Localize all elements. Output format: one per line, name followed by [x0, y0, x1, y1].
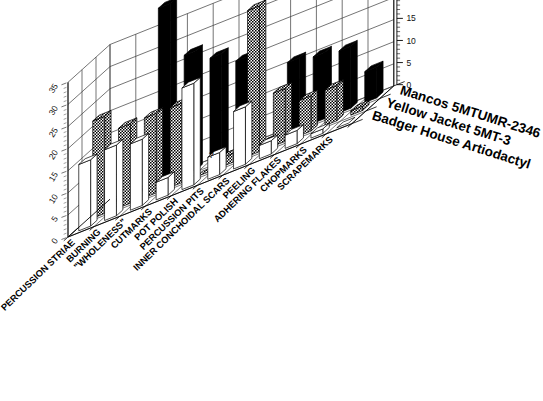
bar: [130, 133, 148, 210]
y-axis-tick-label: 5: [406, 58, 411, 68]
three-d-bar-chart: 05101520253035 05101520253035 PERCUSSION…: [0, 0, 543, 401]
y-axis-tick-label: 20: [406, 0, 416, 1]
bar: [105, 139, 123, 220]
bar: [234, 101, 252, 169]
question-mark-annotation: ?: [209, 150, 214, 160]
chart-container: 05101520253035 05101520253035 PERCUSSION…: [0, 0, 543, 401]
y-axis-tick-label: 15: [406, 13, 416, 23]
y-axis-tick-label: 10: [406, 36, 416, 46]
bar: [182, 77, 200, 189]
chart-annotations: ?: [209, 150, 214, 160]
